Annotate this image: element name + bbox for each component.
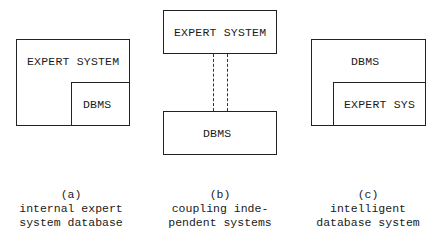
c-caption: (c) intelligent database system: [298, 188, 438, 230]
a-caption-letter: (a): [1, 188, 141, 202]
b-caption: (b) coupling inde- pendent systems: [150, 188, 290, 230]
a-caption-line2: system database: [1, 216, 141, 230]
a-caption-line1: internal expert: [1, 202, 141, 216]
b-bottom-label: DBMS: [203, 127, 231, 140]
b-connector-line-left: [213, 54, 214, 111]
c-outer-label: DBMS: [351, 55, 379, 68]
c-inner-label: EXPERT SYS: [344, 98, 415, 111]
c-caption-line2: database system: [298, 216, 438, 230]
b-caption-letter: (b): [150, 188, 290, 202]
a-caption: (a) internal expert system database: [1, 188, 141, 230]
c-caption-letter: (c): [298, 188, 438, 202]
b-caption-line2: pendent systems: [150, 216, 290, 230]
b-top-label: EXPERT SYSTEM: [174, 26, 266, 39]
b-connector-line-right: [227, 54, 228, 111]
b-caption-line1: coupling inde-: [150, 202, 290, 216]
a-inner-label: DBMS: [83, 98, 111, 111]
c-caption-line1: intelligent: [298, 202, 438, 216]
a-outer-label: EXPERT SYSTEM: [27, 55, 119, 68]
